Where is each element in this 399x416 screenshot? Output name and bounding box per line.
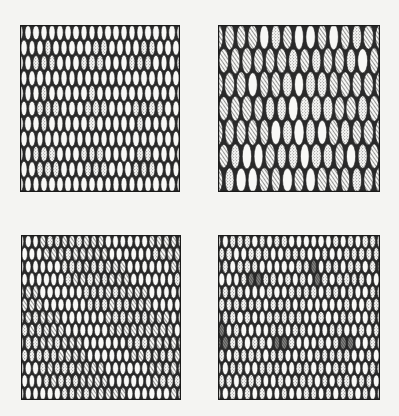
cell-plain bbox=[133, 71, 140, 86]
cell-plain bbox=[22, 273, 27, 285]
cell-stipple bbox=[322, 248, 327, 261]
cell-stipple bbox=[300, 374, 306, 387]
cell-hatch bbox=[84, 362, 89, 375]
cell-plain bbox=[359, 298, 365, 311]
cell-stipple bbox=[344, 273, 350, 286]
cell-stipple bbox=[370, 235, 376, 248]
cell-stipple bbox=[116, 298, 122, 311]
cell-stipple bbox=[226, 375, 232, 388]
cell-hatch bbox=[167, 248, 173, 261]
cell-stipple bbox=[62, 362, 68, 374]
cell-dense bbox=[311, 260, 316, 273]
cell-hatch bbox=[91, 387, 97, 400]
cell-stipple bbox=[323, 144, 332, 168]
cell-hatch bbox=[149, 362, 154, 374]
cell-hatch bbox=[76, 337, 81, 350]
cell-stipple bbox=[248, 248, 254, 261]
cell-hatch bbox=[25, 286, 31, 299]
cell-stipple bbox=[237, 362, 242, 375]
cell-plain bbox=[113, 147, 119, 162]
cell-plain bbox=[362, 311, 368, 324]
cell-stipple bbox=[329, 349, 334, 362]
cell-hatch bbox=[265, 144, 275, 169]
cell-stipple bbox=[359, 248, 365, 261]
cell-plain bbox=[129, 116, 135, 131]
cell-stipple bbox=[36, 324, 41, 337]
cell-hatch bbox=[102, 248, 108, 261]
cell-plain bbox=[69, 131, 75, 147]
cell-hatch bbox=[87, 248, 93, 261]
cell-plain bbox=[121, 177, 127, 192]
cell-plain bbox=[89, 25, 95, 40]
cell-plain bbox=[241, 248, 247, 261]
cell-plain bbox=[325, 311, 331, 324]
cell-plain bbox=[161, 55, 167, 71]
cell-stipple bbox=[289, 286, 295, 299]
cell-plain bbox=[289, 387, 295, 399]
cell-plain bbox=[113, 56, 119, 70]
cell-hatch bbox=[254, 96, 263, 121]
cell-stipple bbox=[33, 56, 39, 71]
cell-stipple bbox=[277, 144, 286, 168]
cell-stipple bbox=[267, 286, 273, 299]
cell-plain bbox=[105, 116, 111, 130]
cell-plain bbox=[318, 120, 327, 144]
cell-plain bbox=[125, 71, 132, 86]
cell-plain bbox=[134, 362, 140, 374]
cell-plain bbox=[69, 286, 74, 299]
cell-plain bbox=[25, 116, 32, 131]
cell-plain bbox=[81, 116, 87, 131]
cell-plain bbox=[351, 350, 357, 362]
cell-stipple bbox=[85, 162, 91, 177]
cell-stipple bbox=[160, 349, 165, 361]
cell-stipple bbox=[341, 362, 346, 374]
cell-hatch bbox=[145, 298, 151, 311]
cell-plain bbox=[97, 86, 103, 101]
cell-stipple bbox=[307, 374, 313, 387]
cell-stipple bbox=[344, 248, 350, 261]
cell-plain bbox=[285, 375, 291, 387]
cell-dense bbox=[347, 336, 353, 349]
cell-plain bbox=[121, 146, 128, 162]
cell-hatch bbox=[36, 299, 42, 311]
cell-stipple bbox=[289, 49, 298, 73]
cell-plain bbox=[125, 40, 131, 56]
cell-dense bbox=[314, 273, 320, 286]
cell-plain bbox=[109, 375, 115, 387]
cell-stipple bbox=[293, 375, 299, 387]
cell-plain bbox=[73, 86, 79, 101]
cell-plain bbox=[113, 25, 119, 40]
cell-plain bbox=[62, 286, 68, 299]
cell-plain bbox=[226, 324, 231, 337]
cell-plain bbox=[142, 362, 148, 375]
cell-hatch bbox=[47, 311, 53, 324]
cell-stipple bbox=[84, 286, 90, 299]
cell-stipple bbox=[153, 248, 159, 261]
cell-plain bbox=[173, 162, 179, 177]
cell-plain bbox=[21, 71, 27, 86]
cell-hatch bbox=[69, 235, 75, 248]
texture-panel-top-right bbox=[218, 25, 380, 192]
cell-plain bbox=[113, 86, 119, 101]
cell-plain bbox=[87, 324, 93, 337]
cell-stipple bbox=[341, 120, 350, 145]
cell-plain bbox=[25, 177, 31, 192]
cell-hatch bbox=[236, 72, 246, 98]
cell-stipple bbox=[230, 235, 236, 248]
cell-plain bbox=[340, 286, 345, 299]
cell-hatch bbox=[283, 25, 292, 49]
cell-stipple bbox=[267, 311, 273, 323]
cell-hatch bbox=[171, 362, 177, 375]
cell-plain bbox=[289, 261, 295, 273]
cell-hatch bbox=[277, 49, 287, 73]
cell-stipple bbox=[84, 388, 90, 400]
cell-stipple bbox=[95, 298, 100, 311]
cell-stipple bbox=[270, 273, 276, 286]
texture-panel-top-right-svg bbox=[218, 25, 380, 192]
cell-stipple bbox=[255, 298, 261, 311]
cell-stipple bbox=[296, 362, 302, 374]
cell-plain bbox=[37, 70, 44, 86]
cell-plain bbox=[142, 261, 147, 273]
cell-hatch bbox=[259, 168, 269, 192]
cell-hatch bbox=[29, 324, 35, 336]
